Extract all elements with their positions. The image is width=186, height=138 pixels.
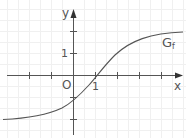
curve-label-sub: f [172,42,175,51]
x-axis-label: x [174,79,181,93]
x-axis [7,72,177,79]
curve-label: Gf [162,35,175,51]
function-graph: y x O 1 1 Gf [0,0,186,138]
x-tick-label-1: 1 [92,80,99,93]
y-axis-arrow-icon [71,9,77,18]
curve-label-main: G [162,35,172,50]
y-tick-label-1: 1 [61,47,68,60]
y-axis-label: y [62,6,69,20]
x-axis-arrow-icon [175,73,183,79]
origin-label: O [62,78,71,92]
